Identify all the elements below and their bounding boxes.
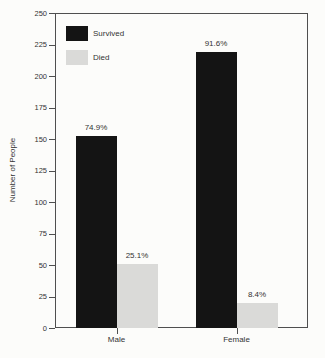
y-tick-label: 175 (14, 103, 47, 112)
bar-percent-label: 74.9% (66, 123, 126, 133)
y-tick-label: 125 (14, 166, 47, 175)
y-axis-tick (49, 76, 55, 77)
y-axis-tick (49, 13, 55, 14)
x-axis-tick (117, 328, 118, 334)
bar-percent-label: 25.1% (107, 251, 167, 261)
bar-chart-figure: Number of People 02550751001251501752002… (0, 0, 325, 358)
bar-percent-label: 91.6% (186, 39, 246, 49)
y-tick-label: 0 (14, 324, 47, 333)
x-tick-label-female: Female (207, 335, 267, 345)
legend-swatch-survived (66, 26, 88, 41)
y-axis-tick (49, 202, 55, 203)
y-axis-tick (49, 171, 55, 172)
legend-label-died: Died (93, 50, 109, 65)
y-tick-label: 150 (14, 135, 47, 144)
y-tick-label: 225 (14, 40, 47, 49)
y-axis-tick (49, 139, 55, 140)
y-axis-tick (49, 234, 55, 235)
y-tick-label: 50 (14, 261, 47, 270)
y-axis-tick (49, 108, 55, 109)
legend-label-survived: Survived (93, 26, 124, 41)
y-axis-tick (49, 265, 55, 266)
bar-survived-male (76, 136, 117, 328)
legend-swatch-died (66, 50, 88, 65)
y-tick-label: 100 (14, 198, 47, 207)
y-tick-label: 250 (14, 9, 47, 18)
y-tick-label: 200 (14, 72, 47, 81)
y-axis-tick (49, 328, 55, 329)
y-tick-label: 75 (14, 229, 47, 238)
bar-died-male (117, 264, 158, 328)
x-axis-tick (237, 328, 238, 334)
bar-percent-label: 8.4% (227, 290, 287, 300)
y-axis-tick (49, 45, 55, 46)
x-tick-label-male: Male (87, 335, 147, 345)
bar-survived-female (196, 52, 237, 328)
bar-died-female (237, 303, 278, 328)
y-tick-label: 25 (14, 292, 47, 301)
y-axis-tick (49, 297, 55, 298)
